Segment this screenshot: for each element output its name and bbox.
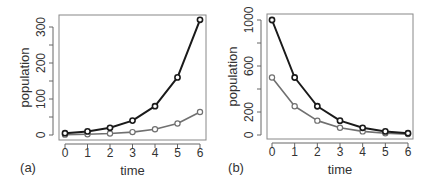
x-tick-label: 4: [152, 146, 159, 160]
data-point: [292, 75, 297, 80]
series-light: [269, 75, 410, 137]
y-axis-title: population: [225, 47, 240, 107]
x-tick-label: 3: [337, 145, 344, 159]
panel-label: (a): [20, 160, 36, 175]
chart-figure: 01002003000123456timepopulation(a)020060…: [0, 0, 434, 188]
data-point: [292, 104, 297, 109]
y-tick-label: 100: [34, 89, 48, 109]
x-tick-label: 2: [107, 146, 114, 160]
data-point: [130, 118, 135, 123]
y-axis-title: population: [17, 48, 32, 108]
x-tick-label: 1: [291, 145, 298, 159]
x-tick-label: 0: [269, 145, 276, 159]
data-point: [152, 127, 157, 132]
data-point: [107, 131, 112, 136]
series-dark: [62, 17, 202, 136]
x-tick-label: 4: [359, 145, 366, 159]
data-point: [360, 125, 365, 130]
y-axis: 0100200300: [34, 17, 53, 139]
data-point: [130, 130, 135, 135]
y-tick-label: 0: [34, 131, 48, 138]
data-point: [175, 121, 180, 126]
x-tick-label: 2: [314, 145, 321, 159]
y-tick-label: 1000: [242, 6, 256, 33]
data-point: [62, 131, 67, 136]
x-axis: 0123456: [269, 143, 412, 159]
data-point: [85, 129, 90, 134]
data-point: [315, 118, 320, 123]
data-point: [383, 129, 388, 134]
data-point: [405, 131, 410, 136]
x-tick-label: 3: [129, 146, 136, 160]
chart-panel-a: 01002003000123456timepopulation(a): [17, 15, 206, 178]
data-point: [197, 109, 202, 114]
series-dark: [269, 17, 410, 135]
y-tick-label: 200: [242, 102, 256, 122]
data-point: [197, 17, 202, 22]
x-axis-title: time: [328, 162, 353, 177]
data-point: [175, 75, 180, 80]
x-tick-label: 5: [174, 146, 181, 160]
y-tick-label: 600: [242, 56, 256, 76]
x-tick-label: 1: [84, 146, 91, 160]
panel-label: (b): [228, 160, 244, 175]
y-tick-label: 300: [34, 17, 48, 37]
x-tick-label: 5: [382, 145, 389, 159]
data-point: [269, 75, 274, 80]
chart-panel-b: 020060010000123456timepopulation(b): [225, 6, 413, 177]
x-tick-label: 6: [405, 145, 412, 159]
data-point: [269, 17, 274, 22]
data-point: [152, 104, 157, 109]
y-axis: 02006001000: [242, 6, 261, 138]
x-axis: 0123456: [62, 144, 204, 160]
data-point: [107, 125, 112, 130]
x-axis-title: time: [120, 163, 145, 178]
data-point: [315, 104, 320, 109]
data-point: [337, 125, 342, 130]
y-tick-label: 200: [34, 53, 48, 73]
x-tick-label: 0: [62, 146, 69, 160]
data-point: [337, 118, 342, 123]
y-tick-label: 0: [242, 131, 256, 138]
x-tick-label: 6: [197, 146, 204, 160]
